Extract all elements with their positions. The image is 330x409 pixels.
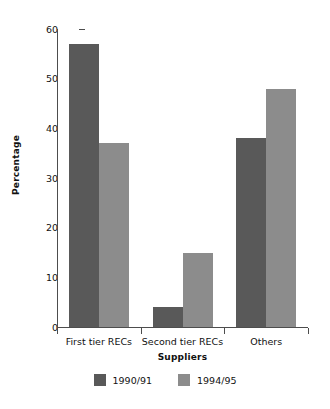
legend-label: 1990/91 xyxy=(113,375,152,386)
bar xyxy=(69,44,99,327)
bar xyxy=(99,143,129,327)
bars-layer xyxy=(57,0,308,327)
x-axis-line xyxy=(57,327,308,328)
plot-area: 6050403020100 First tier RECsSecond tier… xyxy=(0,0,330,340)
x-category-label: Second tier RECs xyxy=(141,336,225,347)
legend-item: 1994/95 xyxy=(178,374,236,386)
y-axis-ticks: 6050403020100 xyxy=(28,0,58,340)
legend-swatch-icon xyxy=(94,374,106,386)
x-tick-mark xyxy=(308,328,309,334)
x-category-label: First tier RECs xyxy=(57,336,141,347)
bar-chart: Percentage 6050403020100 First tier RECs… xyxy=(0,0,330,409)
bar xyxy=(266,89,296,327)
legend-item: 1990/91 xyxy=(94,374,152,386)
x-tick-mark xyxy=(57,328,58,334)
bar xyxy=(183,253,213,328)
bar xyxy=(153,307,183,327)
x-category-label: Others xyxy=(224,336,308,347)
bar xyxy=(236,138,266,327)
x-axis-title: Suppliers xyxy=(57,352,308,362)
x-axis-category-labels: First tier RECsSecond tier RECsOthers xyxy=(57,336,308,352)
legend-swatch-icon xyxy=(178,374,190,386)
x-tick-mark xyxy=(224,328,225,334)
x-tick-mark xyxy=(141,328,142,334)
legend-label: 1994/95 xyxy=(197,375,236,386)
chart-legend: 1990/911994/95 xyxy=(0,374,330,386)
